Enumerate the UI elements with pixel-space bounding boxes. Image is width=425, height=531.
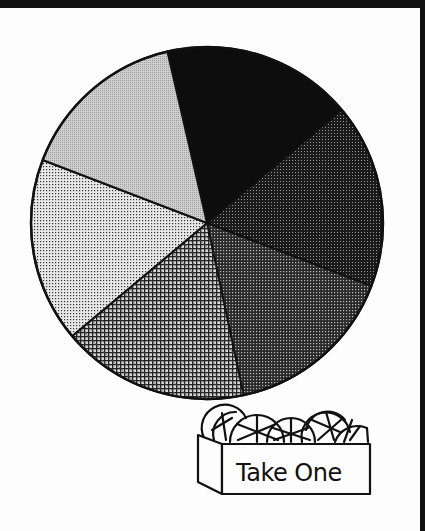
pie-discs-icon (202, 405, 368, 442)
take-one-label: Take One (235, 459, 342, 487)
pie-chart-illustration: Take One (0, 0, 425, 531)
box-side-face (198, 435, 222, 494)
pie (31, 47, 383, 399)
